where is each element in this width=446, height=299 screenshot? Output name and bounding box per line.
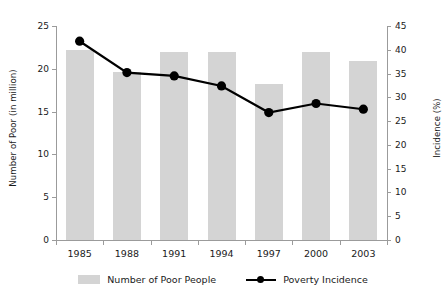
data-point-marker	[264, 108, 273, 117]
y-axis-right-tick	[387, 192, 391, 193]
x-axis-tick-label: 1994	[209, 248, 233, 259]
y-axis-right-tick-label: 5	[395, 211, 401, 221]
y-axis-right-title: Incidence (%)	[432, 63, 442, 193]
y-axis-left-tick-label: 5	[43, 192, 49, 202]
x-axis-tick	[292, 241, 293, 245]
legend-line-swatch-icon	[246, 275, 276, 284]
y-axis-left-tick-label: 10	[38, 149, 49, 159]
poverty-combo-chart: Number of Poor (in million) Incidence (%…	[0, 0, 446, 299]
y-axis-right-line	[387, 26, 388, 241]
y-axis-right-tick	[387, 26, 391, 27]
y-axis-left-tick-label: 25	[38, 21, 49, 31]
x-axis-tick-label: 2000	[304, 248, 328, 259]
data-point-marker	[170, 71, 179, 80]
x-axis-tick	[56, 241, 57, 245]
data-point-marker	[311, 99, 320, 108]
y-axis-right-tick	[387, 145, 391, 146]
x-axis-tick-label: 2003	[351, 248, 375, 259]
y-axis-right-tick-label: 0	[395, 235, 401, 245]
y-axis-right-tick-label: 35	[395, 69, 406, 79]
y-axis-right-tick	[387, 121, 391, 122]
x-axis-tick	[387, 241, 388, 245]
x-axis-tick-label: 1988	[115, 248, 139, 259]
y-axis-right-tick-label: 15	[395, 164, 406, 174]
data-point-marker	[122, 68, 131, 77]
y-axis-left-tick-label: 15	[38, 107, 49, 117]
y-axis-right-tick	[387, 97, 391, 98]
x-axis-tick	[245, 241, 246, 245]
y-axis-right-tick	[387, 50, 391, 51]
line-series	[56, 26, 387, 240]
x-axis-tick	[151, 241, 152, 245]
y-axis-right-tick-label: 40	[395, 45, 406, 55]
y-axis-right-tick-label: 45	[395, 21, 406, 31]
y-axis-right-tick	[387, 169, 391, 170]
poverty-incidence-line	[80, 41, 364, 112]
x-axis-tick-label: 1985	[68, 248, 92, 259]
x-axis-tick	[340, 241, 341, 245]
legend-label-bars: Number of Poor People	[107, 274, 216, 285]
legend-label-line: Poverty Incidence	[283, 274, 368, 285]
y-axis-left-tick-label: 20	[38, 64, 49, 74]
y-axis-right-tick	[387, 74, 391, 75]
plot-area: 0510152025 051015202530354045 1985198819…	[56, 26, 387, 240]
data-point-marker	[217, 81, 226, 90]
data-point-marker	[359, 105, 368, 114]
chart-legend: Number of Poor People Poverty Incidence	[0, 274, 446, 285]
y-axis-right-tick	[387, 216, 391, 217]
x-axis-tick-label: 1997	[257, 248, 281, 259]
legend-bar-swatch-icon	[78, 275, 100, 284]
y-axis-left-title: Number of Poor (in million)	[8, 63, 18, 193]
legend-item-bars: Number of Poor People	[78, 274, 216, 285]
x-axis-tick	[103, 241, 104, 245]
x-axis-tick-label: 1991	[162, 248, 186, 259]
y-axis-right-tick-label: 10	[395, 187, 406, 197]
y-axis-right-tick-label: 25	[395, 116, 406, 126]
y-axis-right-tick-label: 30	[395, 92, 406, 102]
x-axis-line	[56, 240, 388, 241]
data-point-marker	[75, 37, 84, 46]
y-axis-left-tick-label: 0	[43, 235, 49, 245]
x-axis-tick	[198, 241, 199, 245]
y-axis-right-tick-label: 20	[395, 140, 406, 150]
legend-item-line: Poverty Incidence	[246, 274, 368, 285]
